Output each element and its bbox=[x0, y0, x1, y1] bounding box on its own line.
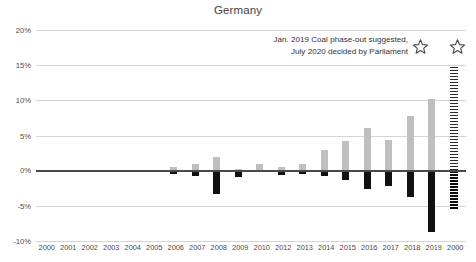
y-axis-tick-label: -10% bbox=[13, 237, 31, 246]
x-axis-tick-label: 2017 bbox=[383, 243, 399, 252]
gridline: -10% bbox=[36, 241, 466, 242]
chart-title: Germany bbox=[0, 4, 476, 16]
chart-container: Germany 20%15%10%5%0%-5%-10% 20002001200… bbox=[0, 0, 476, 262]
bar-positive bbox=[450, 67, 458, 170]
bar-positive bbox=[213, 157, 220, 170]
y-axis-tick-label: 10% bbox=[16, 96, 31, 105]
x-axis-tick-label: 2005 bbox=[146, 243, 162, 252]
bar-negative bbox=[364, 171, 371, 189]
x-axis: 2000200120022003200420052006200720082009… bbox=[36, 243, 466, 259]
x-axis-tick-label: 2013 bbox=[297, 243, 313, 252]
y-axis-tick-label: 15% bbox=[16, 61, 31, 70]
x-axis-tick-label: 2012 bbox=[275, 243, 291, 252]
y-axis-tick-label: 5% bbox=[20, 131, 31, 140]
x-axis-tick-label: 2006 bbox=[168, 243, 184, 252]
bar-positive bbox=[407, 116, 414, 171]
x-axis-tick-label: 2003 bbox=[103, 243, 119, 252]
x-axis-tick-label: 2000 bbox=[447, 243, 463, 252]
x-axis-tick-label: 2009 bbox=[232, 243, 248, 252]
bar-negative bbox=[407, 171, 414, 197]
x-axis-tick-label: 2019 bbox=[426, 243, 442, 252]
bar-negative bbox=[342, 171, 349, 180]
bar-positive bbox=[321, 150, 328, 170]
y-axis-tick-label: 0% bbox=[20, 165, 31, 174]
x-axis-tick-label: 2008 bbox=[211, 243, 227, 252]
x-axis-tick-label: 2000 bbox=[39, 243, 55, 252]
y-axis-tick-label: 20% bbox=[16, 26, 31, 35]
y-axis-tick-label: -5% bbox=[17, 201, 31, 210]
x-axis-tick-label: 2016 bbox=[361, 243, 377, 252]
x-axis-tick-label: 2004 bbox=[125, 243, 141, 252]
bar-negative bbox=[450, 171, 458, 209]
x-axis-tick-label: 2014 bbox=[318, 243, 334, 252]
x-axis-tick-label: 2010 bbox=[254, 243, 270, 252]
bar-positive bbox=[342, 141, 349, 171]
x-axis-tick-label: 2007 bbox=[189, 243, 205, 252]
x-axis-tick-label: 2015 bbox=[340, 243, 356, 252]
bar-negative bbox=[385, 171, 392, 186]
bar-positive bbox=[364, 128, 371, 170]
plot-area: 20%15%10%5%0%-5%-10% bbox=[36, 30, 466, 241]
bar-positive bbox=[428, 99, 435, 171]
zero-axis-line: 0% bbox=[36, 170, 466, 172]
bar-positive bbox=[385, 140, 392, 170]
bar-negative bbox=[428, 171, 435, 232]
x-axis-tick-label: 2001 bbox=[60, 243, 76, 252]
bar-negative bbox=[213, 171, 220, 194]
x-axis-tick-label: 2018 bbox=[404, 243, 420, 252]
bars-layer bbox=[36, 30, 466, 241]
x-axis-tick-label: 2002 bbox=[82, 243, 98, 252]
